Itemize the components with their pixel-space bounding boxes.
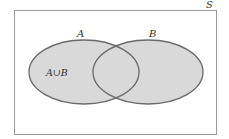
set-b-label: B [148,28,156,39]
union-region-label: A∪B [45,67,68,78]
universe-label: S [206,0,213,10]
venn-diagram: S A B A∪B [0,0,229,139]
set-a-label: A [76,28,84,39]
